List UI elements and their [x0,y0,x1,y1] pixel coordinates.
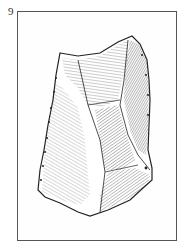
stone-tool-illustration [0,0,186,252]
